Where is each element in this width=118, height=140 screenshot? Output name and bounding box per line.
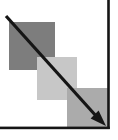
pictogram-canvas [0,0,118,140]
pictogram-svg [0,0,118,140]
frame-right-line [107,0,110,129]
frame-bottom-line [0,127,110,130]
